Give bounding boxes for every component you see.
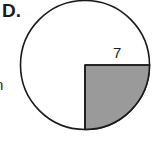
figure-panel: D. 7 n bbox=[0, 0, 160, 150]
radius-measure-label: 7 bbox=[113, 44, 121, 61]
cropped-edge-text: n bbox=[0, 76, 4, 93]
answer-choice-label: D. bbox=[2, 0, 21, 22]
shaded-quarter-sector bbox=[85, 65, 150, 130]
circle-diagram bbox=[0, 0, 160, 150]
